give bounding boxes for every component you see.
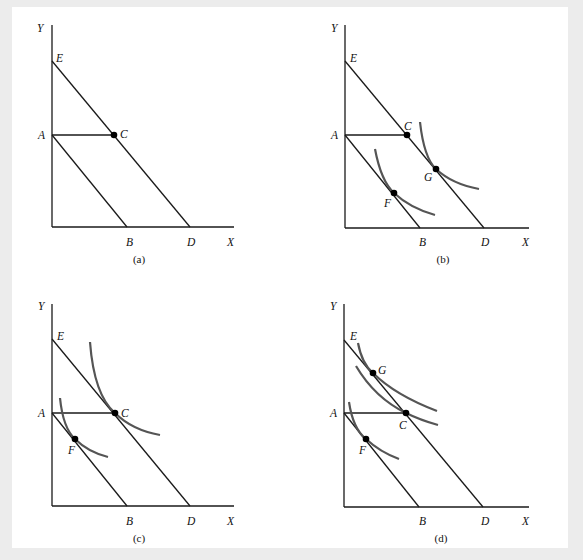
indifference-curve-C xyxy=(356,366,438,425)
label-F: F xyxy=(358,444,367,456)
point-F xyxy=(391,190,398,197)
budget-line-ED xyxy=(52,61,190,227)
point-F xyxy=(363,436,370,443)
panel-a: Y E A C B D X (a) xyxy=(37,22,235,266)
label-D: D xyxy=(480,236,490,248)
label-A: A xyxy=(329,407,338,419)
y-axis-label: Y xyxy=(38,300,46,312)
point-G xyxy=(433,166,440,173)
label-G: G xyxy=(378,364,387,376)
label-B: B xyxy=(126,236,133,248)
x-axis-label: X xyxy=(521,515,530,527)
label-E: E xyxy=(349,330,357,342)
label-F: F xyxy=(67,444,76,456)
point-F xyxy=(72,436,79,443)
panel-d: Y E A C G F B D X (d) xyxy=(329,300,530,545)
caption-c: (c) xyxy=(133,532,146,545)
label-C: C xyxy=(399,419,407,431)
x-axis-label: X xyxy=(521,236,530,248)
label-E: E xyxy=(349,52,357,64)
budget-line-AB xyxy=(345,135,420,228)
y-axis-label: Y xyxy=(37,22,45,34)
label-B: B xyxy=(126,515,133,527)
budget-line-AB xyxy=(52,135,127,227)
label-G: G xyxy=(424,171,433,183)
figure-svg: Y E A C B D X (a) Y E A C G F B D X (b) xyxy=(0,0,583,560)
point-C xyxy=(404,132,411,139)
label-B: B xyxy=(419,515,426,527)
label-C: C xyxy=(121,407,129,419)
label-B: B xyxy=(419,236,426,248)
budget-line-AB xyxy=(52,413,127,506)
label-A: A xyxy=(37,129,46,141)
y-axis-label: Y xyxy=(330,300,338,312)
panel-b: Y E A C G F B D X (b) xyxy=(330,22,530,266)
point-C xyxy=(111,132,118,139)
x-axis-label: X xyxy=(226,236,235,248)
label-E: E xyxy=(55,52,63,64)
point-G xyxy=(370,370,377,377)
budget-line-ED xyxy=(52,339,190,506)
label-E: E xyxy=(56,330,64,342)
caption-b: (b) xyxy=(437,253,450,266)
caption-a: (a) xyxy=(133,253,146,266)
label-D: D xyxy=(186,515,196,527)
label-A: A xyxy=(330,129,339,141)
label-D: D xyxy=(480,515,490,527)
label-A: A xyxy=(37,407,46,419)
y-axis-label: Y xyxy=(331,22,339,34)
label-C: C xyxy=(404,120,412,132)
indifference-curve-G xyxy=(358,343,437,411)
label-C: C xyxy=(120,128,128,140)
x-axis-label: X xyxy=(226,515,235,527)
caption-d: (d) xyxy=(435,532,448,545)
budget-line-ED xyxy=(345,61,484,228)
indifference-curve-C xyxy=(90,342,160,435)
point-C xyxy=(112,410,119,417)
panel-c: Y E A C F B D X (c) xyxy=(37,300,235,545)
point-C xyxy=(403,410,410,417)
label-D: D xyxy=(186,236,196,248)
label-F: F xyxy=(383,197,392,209)
